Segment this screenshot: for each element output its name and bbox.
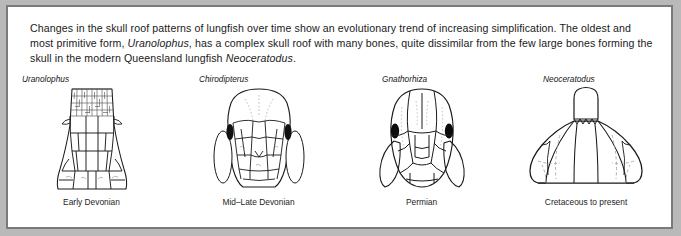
skull-diagram-gnathorhiza	[360, 85, 484, 197]
skull-diagram-chirodipterus	[197, 85, 321, 197]
specimen-neoceratodus: Neoceratodus	[501, 73, 671, 223]
specimen-chirodipterus: Chirodipterus	[175, 73, 342, 223]
figure-panel: Changes in the skull roof patterns of lu…	[6, 5, 673, 229]
caption-text-part3: .	[293, 52, 296, 64]
specimen-genus-label: Uranolophus	[22, 73, 69, 85]
specimen-period-label: Early Devonian	[8, 197, 175, 207]
specimen-row: Uranolophus	[8, 73, 671, 223]
caption-genus-neoceratodus: Neoceratodus	[226, 52, 293, 64]
specimen-genus-label: Neoceratodus	[543, 73, 595, 85]
skull-diagram-neoceratodus	[516, 85, 656, 197]
specimen-uranolophus: Uranolophus	[8, 73, 175, 223]
specimen-genus-label: Gnathorhiza	[382, 73, 427, 85]
caption-genus-uranolophus: Uranolophus	[128, 37, 189, 49]
specimen-period-label: Cretaceous to present	[501, 197, 671, 207]
specimen-period-label: Permian	[342, 197, 501, 207]
specimen-gnathorhiza: Gnathorhiza	[342, 73, 501, 223]
specimen-genus-label: Chirodipterus	[199, 73, 248, 85]
orbit	[226, 124, 291, 140]
figure-caption: Changes in the skull roof patterns of lu…	[30, 21, 655, 66]
skull-diagram-uranolophus	[32, 85, 152, 197]
specimen-period-label: Mid–Late Devonian	[175, 197, 342, 207]
